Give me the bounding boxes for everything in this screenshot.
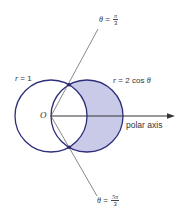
equals-sign: = [20,74,25,83]
intersection-point-upper [67,83,71,87]
label-theta-pi-over-3: θ = π 3 [99,13,118,27]
cos-func: cos [132,76,144,85]
theta-symbol: θ [97,196,101,205]
r-symbol: r [113,76,116,85]
fraction-denominator: 3 [114,20,117,26]
equals-sign: = [103,196,108,205]
equals-sign: = [118,76,123,85]
value: 1 [27,74,31,83]
label-r-equals-1: r = 1 [15,75,32,83]
fraction: 5π 3 [111,194,119,208]
intersection-point-lower [67,145,71,149]
coefficient: 2 [125,76,129,85]
label-theta-5pi-over-3: θ = 5π 3 [97,194,119,208]
equals-sign: = [105,15,110,24]
fraction-numerator: π [113,13,118,20]
label-r-equals-2cos-theta: r = 2 cos θ [113,77,151,85]
fraction: π 3 [113,13,118,27]
label-origin: O [40,111,47,120]
theta-symbol: θ [147,76,151,85]
fraction-denominator: 3 [113,201,116,207]
theta-symbol: θ [99,15,103,24]
label-polar-axis: polar axis [126,121,162,130]
r-symbol: r [15,74,18,83]
polar-axis-arrowhead-icon [167,113,175,118]
fraction-numerator: 5π [111,194,119,201]
polar-diagram [0,0,187,223]
